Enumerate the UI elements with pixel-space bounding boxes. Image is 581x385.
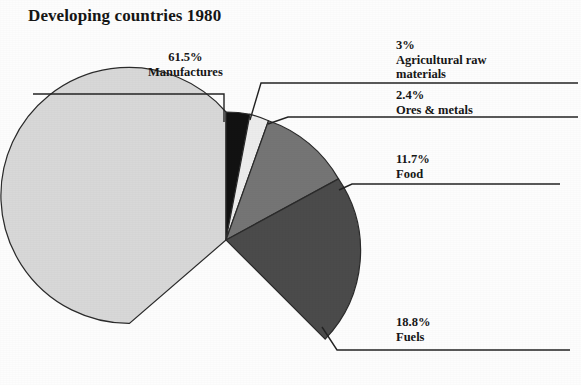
slice-name-ores: Ores & metals: [396, 103, 473, 118]
slice-label-agricultural: 3% Agricultural raw materials: [396, 38, 487, 82]
slice-label-ores: 2.4% Ores & metals: [396, 88, 473, 117]
slice-name-agricultural-line1: Agricultural raw: [396, 53, 487, 68]
slice-name-agricultural-line2: materials: [396, 67, 487, 82]
leader-line-ores: [268, 117, 578, 124]
slice-pct-fuels: 18.8%: [396, 315, 430, 330]
chart-page: Developing countries 1980 61.5% Manufact…: [0, 0, 581, 385]
slice-pct-agricultural: 3%: [396, 38, 487, 53]
slice-pct-ores: 2.4%: [396, 88, 473, 103]
leader-line-fuels: [322, 327, 570, 350]
slice-pct-food: 11.7%: [396, 152, 430, 167]
slice-name-manufactures: Manufactures: [148, 65, 223, 80]
slice-label-manufactures: 61.5% Manufactures: [148, 50, 223, 79]
leader-line-food: [339, 184, 560, 190]
pie-slice-manufactures[interactable]: [1, 67, 226, 323]
slice-name-food: Food: [396, 167, 430, 182]
slice-pct-manufactures: 61.5%: [148, 50, 223, 65]
pie-chart: [0, 0, 581, 385]
slice-label-food: 11.7% Food: [396, 152, 430, 181]
slice-name-fuels: Fuels: [396, 330, 430, 345]
slice-label-fuels: 18.8% Fuels: [396, 315, 430, 344]
